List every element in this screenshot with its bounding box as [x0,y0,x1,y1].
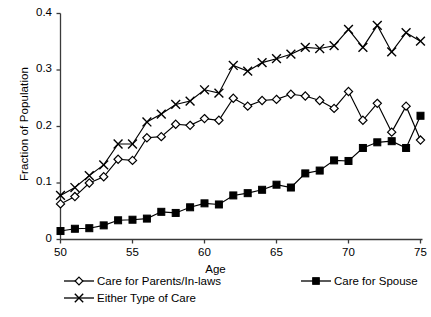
legend-item-filled-square: Care for Spouse [299,274,418,288]
marker-open-diamond [316,96,324,104]
marker-cross-x [344,25,353,34]
legend-label: Care for Spouse [333,275,418,287]
marker-filled-square [201,200,208,207]
marker-filled-square [215,201,222,208]
marker-cross-x [157,110,166,119]
marker-open-diamond [388,128,396,136]
marker-cross-x [215,89,224,98]
marker-cross-x [330,41,339,50]
legend-item-cross-x: Either Type of Care [62,291,196,305]
legend-label: Either Type of Care [96,292,196,304]
marker-filled-square [115,217,122,224]
marker-open-diamond [56,200,64,208]
plot-area [0,0,431,317]
marker-filled-square [316,167,323,174]
legend-label: Care for Parents/In-laws [96,275,221,287]
marker-open-diamond [186,121,194,129]
marker-filled-square [417,112,424,119]
legend-row-2: Either Type of Care [62,289,422,306]
series-either-type-of-care [56,21,425,200]
marker-filled-square [287,184,294,191]
marker-open-diamond [402,102,410,110]
marker-filled-square [172,209,179,216]
marker-filled-square [129,216,136,223]
chart-figure: Fraction of Population Age 00.10.20.30.4… [0,0,431,317]
marker-open-diamond [75,277,83,285]
marker-filled-square [313,277,320,284]
marker-cross-x [387,48,396,57]
marker-filled-square [374,139,381,146]
marker-open-diamond [258,96,266,104]
marker-filled-square [273,181,280,188]
marker-cross-x [359,43,368,52]
marker-cross-x [171,100,180,109]
marker-open-diamond [272,95,280,103]
marker-cross-x [416,37,425,46]
marker-filled-square [187,204,194,211]
marker-cross-x [200,85,209,94]
marker-filled-square [86,225,93,232]
filled-square-legend-icon [299,274,333,288]
series-care-for-parents-in-laws [56,87,424,208]
marker-open-diamond [215,116,223,124]
marker-filled-square [388,138,395,145]
marker-open-diamond [128,156,136,164]
marker-cross-x [272,54,281,63]
marker-cross-x [99,161,108,170]
marker-cross-x [186,97,195,106]
marker-cross-x [373,21,382,30]
marker-cross-x [71,183,80,192]
marker-open-diamond [416,136,424,144]
marker-filled-square [71,225,78,232]
legend-row-1: Care for Parents/In-lawsCare for Spouse [62,272,422,289]
marker-open-diamond [200,114,208,122]
open-diamond-legend-icon [62,274,96,288]
marker-cross-x [287,50,296,59]
marker-cross-x [258,58,267,67]
marker-open-diamond [229,94,237,102]
marker-filled-square [143,215,150,222]
marker-open-diamond [244,102,252,110]
legend-item-open-diamond: Care for Parents/In-laws [62,274,221,288]
marker-filled-square [259,186,266,193]
marker-open-diamond [287,90,295,98]
marker-cross-x [229,61,238,70]
marker-open-diamond [301,92,309,100]
marker-filled-square [230,192,237,199]
marker-filled-square [57,228,64,235]
marker-filled-square [244,190,251,197]
marker-cross-x [143,118,152,127]
marker-cross-x [243,67,252,76]
marker-filled-square [359,144,366,151]
marker-filled-square [331,157,338,164]
marker-filled-square [403,144,410,151]
marker-filled-square [158,208,165,215]
chart-legend: Care for Parents/In-lawsCare for SpouseE… [62,272,422,306]
marker-open-diamond [143,134,151,142]
cross-x-legend-icon [62,291,96,305]
series-care-for-spouse [57,112,424,234]
marker-cross-x [402,28,411,37]
marker-filled-square [345,157,352,164]
marker-filled-square [302,170,309,177]
marker-filled-square [100,222,107,229]
